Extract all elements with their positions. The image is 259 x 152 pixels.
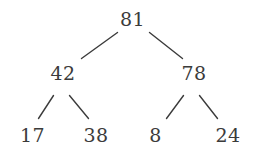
edge-right-child-to-right-leaf (200, 96, 218, 119)
tree-node-left-left-leaf: 17 (20, 126, 45, 145)
tree-node-root: 81 (120, 10, 145, 29)
tree-node-right-child: 78 (182, 64, 207, 83)
tree-node-left-right-leaf: 38 (84, 126, 109, 145)
tree-node-right-right-leaf: 24 (216, 126, 241, 145)
edge-left-child-to-right-leaf (70, 96, 89, 119)
binary-tree-diagram: 81 42 78 17 38 8 24 (0, 0, 259, 152)
edge-root-to-right-child (150, 33, 183, 59)
edge-left-child-to-left-leaf (39, 96, 54, 119)
edge-right-child-to-left-leaf (167, 96, 184, 119)
edge-root-to-left-child (82, 33, 118, 59)
tree-node-left-child: 42 (51, 64, 76, 83)
tree-node-right-left-leaf: 8 (149, 126, 161, 145)
